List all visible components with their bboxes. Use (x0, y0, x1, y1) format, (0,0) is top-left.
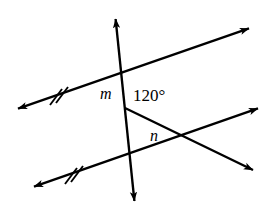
lower-parallel-line (34, 108, 258, 186)
angle-measure-label: 120° (133, 86, 165, 105)
geometry-diagram: 120° m n (0, 0, 273, 222)
line-n-label: n (150, 127, 158, 144)
line-m-label: m (100, 85, 112, 102)
geometry-figure: 120° m n (0, 0, 273, 222)
